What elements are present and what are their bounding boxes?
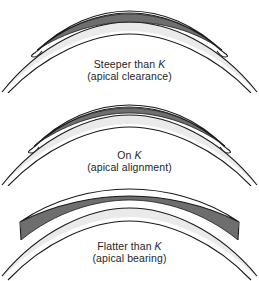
panel-steeper-than-k: Steeper than K (apical clearance) [0, 0, 259, 93]
cornea-posterior-line [8, 221, 251, 280]
cornea-shape [2, 22, 257, 93]
lens-edge-right [238, 222, 239, 240]
panel-on-k: On K (apical alignment) [0, 93, 259, 186]
steeper-than-k-illustration [0, 0, 259, 93]
panel-flatter-than-k: Flatter than K (apical bearing) [0, 188, 259, 281]
flatter-than-k-illustration [0, 188, 259, 281]
cornea-posterior-line [8, 127, 251, 186]
cornea-posterior-line [8, 34, 251, 93]
cornea-shape [2, 115, 257, 186]
on-k-illustration [0, 93, 259, 186]
contact-lens-fitting-figure: Steeper than K (apical clearance) On K (… [0, 0, 259, 281]
lens-edge-left [20, 222, 21, 240]
